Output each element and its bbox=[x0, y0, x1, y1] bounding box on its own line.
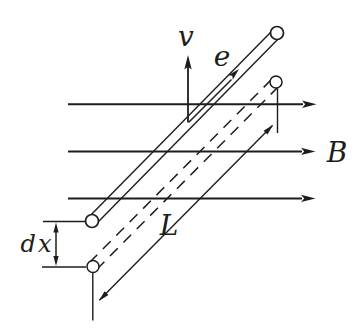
electron-label: e bbox=[214, 40, 231, 73]
length-dimension: L bbox=[93, 89, 278, 321]
field-line-middle-arrowhead-icon bbox=[301, 148, 316, 155]
rod-upper-edge bbox=[88, 30, 273, 218]
displacement-arrowhead-down-icon bbox=[53, 256, 58, 266]
diagram-canvas: v e L dx B bbox=[0, 0, 362, 330]
magnetic-field-label: B bbox=[326, 136, 348, 169]
electron-arrow-shaft bbox=[189, 80, 232, 123]
ghost-rod-right-end-cap bbox=[270, 76, 282, 88]
magnetic-field-lines bbox=[68, 101, 317, 203]
field-line-bottom-arrowhead-icon bbox=[301, 195, 316, 202]
induction-diagram-figure: v e L dx B bbox=[0, 0, 362, 330]
rod-right-end-cap bbox=[271, 27, 284, 40]
rod-displaced-position bbox=[87, 76, 282, 273]
electron-direction-arrow: e bbox=[189, 40, 239, 122]
conducting-rod bbox=[86, 27, 284, 228]
velocity-arrow: v bbox=[178, 20, 194, 123]
displacement-arrowhead-up-icon bbox=[53, 223, 58, 233]
ghost-rod-left-end-cap bbox=[87, 261, 99, 273]
displacement-dimension: dx bbox=[21, 222, 86, 268]
ghost-rod-upper-edge bbox=[90, 79, 273, 263]
field-line-top-arrowhead-icon bbox=[302, 101, 317, 108]
length-label: L bbox=[159, 209, 179, 242]
displacement-label: dx bbox=[21, 230, 54, 258]
rod-left-end-cap bbox=[86, 215, 99, 228]
velocity-label: v bbox=[178, 20, 194, 53]
